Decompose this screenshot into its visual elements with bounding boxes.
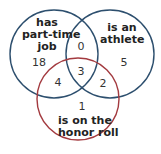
region-honor-only: 1 xyxy=(79,100,86,113)
region-job-athlete: 0 xyxy=(78,40,85,53)
label-line: job xyxy=(22,41,72,53)
label-line: honor roll xyxy=(58,127,108,139)
region-athlete-honor: 2 xyxy=(100,77,107,90)
region-job-only: 18 xyxy=(32,56,46,69)
region-all-three: 3 xyxy=(78,65,85,78)
region-job-honor: 4 xyxy=(55,76,62,89)
label-athlete: is an athlete xyxy=(100,22,144,46)
label-honor-roll: is on the honor roll xyxy=(58,115,108,139)
region-athlete-only: 5 xyxy=(121,56,128,69)
label-line: athlete xyxy=(100,34,144,46)
label-part-time-job: has part-time job xyxy=(22,17,72,53)
